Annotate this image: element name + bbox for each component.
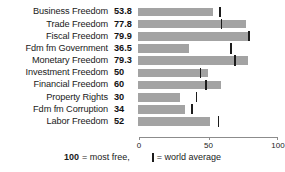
category-label: Fdm fm Government [0,44,108,54]
category-label: Labor Freedom [0,117,108,127]
category-value: 50 [108,68,138,78]
category-value: 34 [108,105,138,115]
value-bar [138,93,180,102]
category-label: Investment Freedom [0,68,108,78]
axis-tick-label: 100 [271,141,284,150]
category-value: 36.5 [108,44,138,54]
world-average-tick [219,7,221,17]
value-bar [138,105,185,114]
chart-row: Fdm fm Government36.5 [0,43,285,55]
chart-row: Business Freedom53.8 [0,6,285,18]
value-bar [138,8,213,17]
chart-row: Property Rights30 [0,91,285,103]
legend-max-value: 100 [64,152,79,162]
bar-track [138,67,277,79]
bar-track [138,91,277,103]
value-bar [138,69,208,78]
category-label: Trade Freedom [0,20,108,30]
category-value: 79.9 [108,32,138,42]
bar-track [138,30,277,42]
world-average-tick [205,80,207,90]
axis-tick-label: 50 [204,141,213,150]
chart-row: Investment Freedom50 [0,67,285,79]
category-label: Business Freedom [0,7,108,17]
axis-tick-label: 0 [137,141,141,150]
world-average-tick [191,104,193,114]
bar-track [138,43,277,55]
chart-row: Fdm fm Corruption34 [0,104,285,116]
category-value: 60 [108,80,138,90]
category-value: 53.8 [108,7,138,17]
category-value: 52 [108,117,138,127]
category-label: Fiscal Freedom [0,32,108,42]
category-label: Property Rights [0,93,108,103]
legend-most-free-label: = most free, [82,152,130,162]
category-value: 77.8 [108,20,138,30]
bar-track [138,79,277,91]
world-average-marker-icon [152,153,154,162]
world-average-tick [200,68,202,78]
category-label: Financial Freedom [0,80,108,90]
axis-tick [209,137,210,140]
value-bar [138,117,210,126]
category-label: Monetary Freedom [0,56,108,66]
chart-rows: Business Freedom53.8Trade Freedom77.8Fis… [0,6,285,128]
freedom-index-bar-chart: Business Freedom53.8Trade Freedom77.8Fis… [0,0,285,172]
world-average-tick [196,92,198,102]
value-bar [138,56,248,65]
category-value: 30 [108,93,138,103]
bar-track [138,18,277,30]
world-average-tick [218,116,220,126]
value-bar [138,20,246,29]
chart-row: Monetary Freedom79.3 [0,55,285,67]
chart-legend: 100 = most free, = world average [0,152,285,162]
axis-tick [277,137,278,140]
legend-world-average-label: = world average [157,152,221,162]
chart-row: Trade Freedom77.8 [0,18,285,30]
axis-tick [139,137,140,140]
bar-track [138,116,277,128]
bar-track [138,6,277,18]
chart-row: Fiscal Freedom79.9 [0,30,285,42]
chart-row: Financial Freedom60 [0,79,285,91]
value-bar [138,32,249,41]
world-average-tick [221,19,223,29]
world-average-tick [230,43,232,53]
value-bar [138,81,221,90]
x-axis: 050100 [139,137,278,138]
value-bar [138,44,189,53]
world-average-tick [248,31,250,41]
bar-track [138,104,277,116]
world-average-tick [234,55,236,65]
category-label: Fdm fm Corruption [0,105,108,115]
category-value: 79.3 [108,56,138,66]
chart-row: Labor Freedom52 [0,116,285,128]
bar-track [138,55,277,67]
